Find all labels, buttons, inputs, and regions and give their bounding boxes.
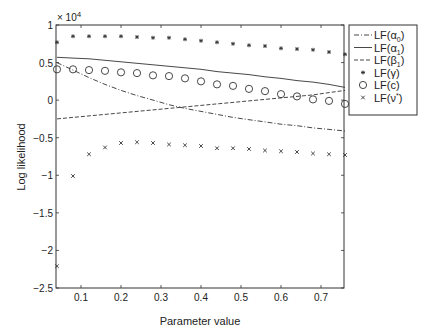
data-point [311,48,315,52]
series-line [57,90,345,119]
data-point [183,37,187,41]
axes-box [56,25,344,288]
x-tick-label: 0.4 [194,292,208,303]
data-point [197,78,204,85]
data-point [167,36,171,40]
x-tick-label: 0.2 [114,292,128,303]
series-line [57,63,345,131]
y-tick-label: 1 [47,20,53,31]
axes: 0.10.20.30.40.50.60.7−2.5−2−1.5−1−0.500.… [33,20,344,303]
data-point [149,72,156,79]
data-point [101,67,108,74]
data-point [53,66,60,73]
data-point [215,40,219,44]
data-point [295,150,299,154]
data-point [279,46,283,50]
data-point [119,141,123,145]
legend-label: LF(c) [374,79,400,91]
data-point [103,146,107,150]
data-point [151,141,155,145]
x-tick-label: 0.1 [74,292,88,303]
data-point [199,144,203,148]
data-point [85,66,92,73]
data-point [229,82,236,89]
series-circle-marker [53,66,348,108]
series-star-marker [55,34,347,56]
data-point [69,66,76,73]
series-dash-dot-line [57,63,345,131]
y-axis-label: Log likelihood [15,123,27,190]
data-point [133,69,140,76]
x-tick-label: 0.7 [314,292,328,303]
data-point [279,149,283,153]
data-point [151,36,155,40]
series-layer [53,34,348,268]
data-point [247,147,251,151]
data-point [213,81,220,88]
data-point [245,85,252,92]
data-point [277,91,284,98]
y-tick-label: 0.5 [39,58,53,69]
data-point [165,72,172,79]
y-tick-label: −2.5 [33,283,53,294]
data-point [119,34,123,38]
data-point [135,140,139,144]
y-tick-label: −1.5 [33,208,53,219]
data-point [87,152,91,156]
data-point [325,97,332,104]
y-tick-label: 0 [47,95,53,106]
series-line [57,57,345,87]
data-point [117,69,124,76]
data-point [135,35,139,39]
data-point [183,143,187,147]
legend-label: LF(ν*) [374,92,402,104]
data-point [167,143,171,147]
data-point [263,149,267,153]
legend-label: LF(γ) [374,67,400,79]
data-point [71,34,75,38]
series-solid-line [57,57,345,87]
data-point [327,152,331,156]
data-point [263,44,267,48]
data-point [199,39,203,43]
data-point [327,50,331,54]
data-point [341,100,348,107]
data-point [181,75,188,82]
data-point [309,96,316,103]
log-likelihood-chart: 0.10.20.30.40.50.60.7−2.5−2−1.5−1−0.500.… [0,0,428,332]
data-point [103,34,107,38]
data-point [247,43,251,47]
data-point [231,146,235,150]
legend: LF(α0)LF(α1)LF(β1)LF(γ)LF(c)LF(ν*) [349,25,417,115]
y-multiplier-label: × 104 [57,10,82,23]
y-tick-label: −2 [42,245,54,256]
series-dashed-line [57,90,345,119]
data-point [261,88,268,95]
data-point [311,152,315,156]
data-point [231,42,235,46]
x-tick-label: 0.5 [234,292,248,303]
data-point [215,146,219,150]
x-tick-label: 0.3 [154,292,168,303]
data-point [87,34,91,38]
x-axis-label: Parameter value [160,315,241,327]
series-x-marker [55,140,347,268]
data-point [295,47,299,51]
x-tick-label: 0.6 [274,292,288,303]
y-tick-label: −0.5 [33,133,53,144]
y-tick-label: −1 [42,170,54,181]
data-point [71,174,75,178]
legend-swatch [361,71,365,75]
